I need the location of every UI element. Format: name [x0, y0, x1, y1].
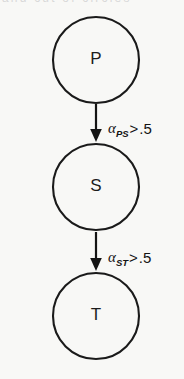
node-s: S [53, 144, 139, 230]
node-t: T [53, 273, 139, 359]
edge-p-s-value: .5 [139, 120, 152, 137]
edge-p-s-arrowhead [90, 129, 102, 142]
edge-p-s: αPS>.5 [90, 104, 152, 142]
node-p-label: P [90, 49, 101, 68]
node-t-label: T [91, 305, 101, 324]
edge-s-t: αST>.5 [90, 232, 151, 271]
edge-p-s-label: αPS>.5 [108, 120, 152, 139]
edge-s-t-arrowhead [90, 258, 102, 271]
node-p: P [53, 17, 139, 103]
edge-s-t-subscript: ST [116, 257, 129, 268]
node-s-label: S [90, 176, 101, 195]
edge-s-t-value: .5 [139, 249, 152, 266]
diagram-canvas: αPS>.5 αST>.5 P S T [0, 0, 184, 379]
edge-s-t-label: αST>.5 [108, 249, 151, 268]
edge-p-s-subscript: PS [116, 128, 129, 139]
edge-s-t-relation: > [129, 249, 138, 266]
path-diagram: and cut of circles αPS>.5 αST>.5 P S [0, 0, 184, 379]
edge-p-s-relation: > [130, 120, 139, 137]
